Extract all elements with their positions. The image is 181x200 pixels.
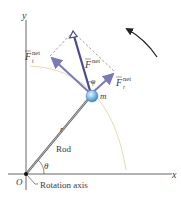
F-t-net-label: F net t — [24, 49, 40, 64]
phi-label: φ — [91, 77, 96, 86]
physics-diagram: y x O Rotation axis Rod r θ φ m F net F … — [0, 0, 181, 200]
F-net-label: F net — [84, 57, 100, 70]
svg-text:net: net — [32, 49, 40, 56]
mass-ball — [86, 90, 98, 102]
diagram-canvas: y x O Rotation axis Rod r θ φ m F net F … — [0, 0, 181, 200]
svg-text:F: F — [84, 59, 92, 70]
svg-text:net: net — [92, 57, 100, 64]
svg-text:net: net — [123, 75, 131, 82]
y-axis-label: y — [21, 10, 27, 21]
svg-text:t: t — [32, 58, 34, 64]
rotation-axis-leader — [27, 175, 38, 184]
x-axis-label: x — [171, 169, 177, 180]
rotation-direction-arrow — [127, 29, 157, 57]
theta-label: θ — [44, 161, 49, 171]
svg-text:r: r — [123, 84, 126, 90]
rotation-axis-label: Rotation axis — [40, 180, 88, 190]
origin-label: O — [16, 177, 23, 187]
svg-text:F: F — [115, 77, 123, 88]
rod-label: Rod — [56, 144, 72, 154]
F-r-net-label: F net r — [115, 75, 131, 90]
mass-label: m — [100, 91, 107, 101]
F-net-arrowhead — [70, 31, 78, 38]
svg-text:F: F — [24, 51, 32, 62]
